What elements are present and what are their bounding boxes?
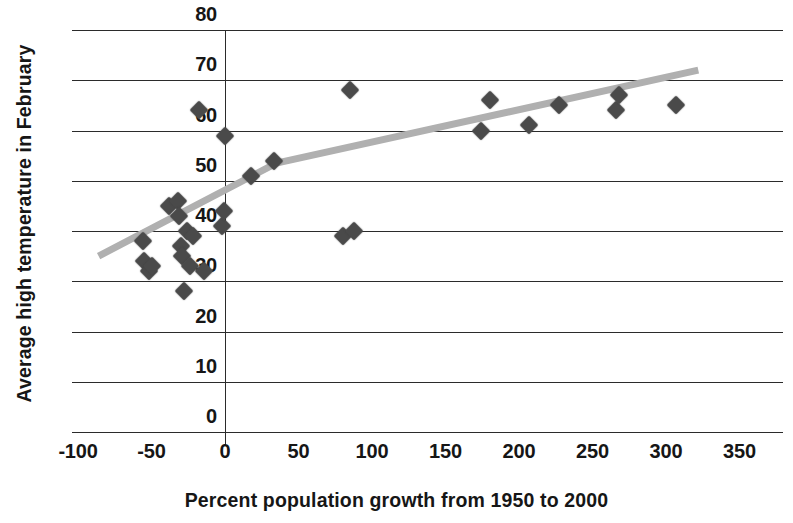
x-tick-label-250: 250 [553, 440, 633, 463]
data-point [610, 86, 628, 104]
x-tick-label-neg100: -100 [38, 440, 118, 463]
data-point [133, 232, 151, 250]
gridline-y-30 [72, 281, 783, 282]
plot-area: 01020304050607080-100-500501001502002503… [0, 0, 793, 523]
gridline-y-80 [72, 30, 783, 31]
scatter-chart-figure: Average high temperature in February 010… [0, 0, 793, 523]
data-point [341, 81, 359, 99]
data-point [264, 151, 282, 169]
gridline-y-70 [72, 80, 783, 81]
y-tick-label-70: 70 [171, 53, 217, 76]
x-tick-label-300: 300 [626, 440, 706, 463]
x-tick-label-350: 350 [700, 440, 780, 463]
gridline-y-10 [72, 382, 783, 383]
data-point [520, 116, 538, 134]
y-tick-label-0: 0 [171, 405, 217, 428]
x-tick-label-100: 100 [332, 440, 412, 463]
data-point [607, 101, 625, 119]
x-tick-label-200: 200 [479, 440, 559, 463]
gridline-y-50 [72, 181, 783, 182]
y-tick-label-10: 10 [171, 355, 217, 378]
data-point [175, 282, 193, 300]
y-axis-line [225, 30, 226, 446]
y-tick-label-50: 50 [171, 154, 217, 177]
y-tick-label-80: 80 [171, 3, 217, 26]
x-axis-title: Percent population growth from 1950 to 2… [0, 489, 793, 512]
data-point [242, 167, 260, 185]
x-tick-label-0: 0 [185, 440, 265, 463]
x-tick-label-150: 150 [406, 440, 486, 463]
x-tick-label-neg50: -50 [112, 440, 192, 463]
data-point [480, 91, 498, 109]
gridline-y-60 [72, 131, 783, 132]
data-point [472, 121, 490, 139]
x-tick-label-50: 50 [259, 440, 339, 463]
data-point [667, 96, 685, 114]
data-point [549, 96, 567, 114]
data-point [216, 126, 234, 144]
data-point [214, 202, 232, 220]
gridline-y-20 [72, 332, 783, 333]
gridline-y-0 [72, 432, 783, 433]
y-tick-label-20: 20 [171, 305, 217, 328]
